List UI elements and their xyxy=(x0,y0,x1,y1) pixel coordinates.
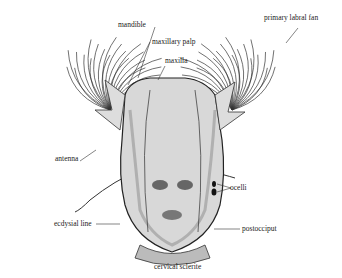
label-cervical-sclerite: cervical sclerite xyxy=(154,263,201,271)
leader-labral-fan xyxy=(286,28,298,43)
label-ocelli: ocelli xyxy=(230,184,247,192)
leader-antenna xyxy=(80,150,96,161)
label-maxilla: maxilla xyxy=(165,57,188,65)
leader-mandible xyxy=(138,27,155,78)
label-postocciput: postocciput xyxy=(242,225,277,233)
pigment-spot xyxy=(177,180,193,190)
pigment-spot xyxy=(162,210,182,220)
label-mandible: mandible xyxy=(118,21,146,29)
label-maxillary-palp: maxillary palp xyxy=(152,38,196,46)
ocellus xyxy=(212,181,216,187)
ocellus xyxy=(212,189,217,196)
label-ecdysial-line: ecdysial line xyxy=(54,220,92,228)
diagram: mandible maxillary palp maxilla primary … xyxy=(0,0,342,278)
label-antenna: antenna xyxy=(55,155,78,163)
label-primary-labral-fan: primary labral fan xyxy=(264,14,318,22)
pigment-spot xyxy=(152,180,168,190)
